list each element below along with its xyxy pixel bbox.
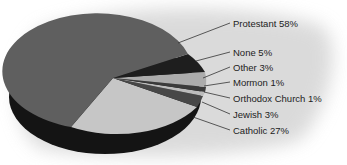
label-jewish: Jewish 3% [233,109,279,120]
pie-chart-svg: Protestant 58% None 5% Other 3% Mormon 1… [0,0,347,165]
pie-chart: Protestant 58% None 5% Other 3% Mormon 1… [0,0,347,165]
label-protestant: Protestant 58% [233,18,299,29]
label-orthodox: Orthodox Church 1% [233,93,322,104]
label-mormon: Mormon 1% [233,77,285,88]
label-catholic: Catholic 27% [233,125,290,136]
label-none: None 5% [233,47,273,58]
label-other: Other 3% [233,62,274,73]
